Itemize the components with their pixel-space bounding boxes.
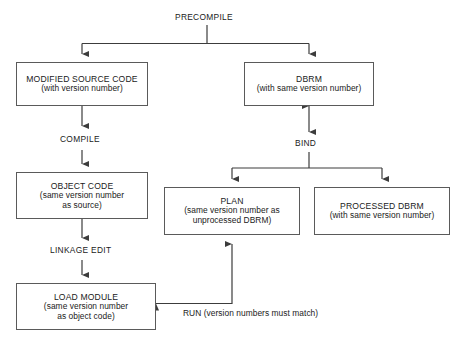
edge-label-bind: BIND [293,138,318,148]
node-subtitle-line: (with version number) [41,84,123,94]
edge-label-run: RUN (version numbers must match) [181,308,320,318]
node-dbrm[interactable]: DBRM (with same version number) [244,62,374,106]
node-object-code[interactable]: OBJECT CODE (same version number as sour… [16,172,148,219]
node-subtitle-line: (with same version number) [257,84,362,94]
edge-label-compile: COMPILE [58,134,102,144]
node-processed-dbrm[interactable]: PROCESSED DBRM (with same version number… [314,187,450,235]
wire-run-to-plan [156,244,232,304]
node-subtitle-line: as source) [62,201,102,211]
node-plan[interactable]: PLAN (same version number as unprocessed… [164,187,300,235]
edge-label-precompile: PRECOMPILE [173,12,235,22]
edge-label-linkage-edit: LINKAGE EDIT [48,245,113,255]
node-modified-source-code[interactable]: MODIFIED SOURCE CODE (with version numbe… [16,62,148,106]
node-subtitle-line: as object code) [57,312,115,322]
node-load-module[interactable]: LOAD MODULE (same version number as obje… [16,283,156,330]
node-subtitle-line: (with same version number) [330,211,435,221]
flowchart-canvas: PRECOMPILE MODIFIED SOURCE CODE (with ve… [0,0,460,343]
node-subtitle-line: unprocessed DBRM) [193,216,272,226]
